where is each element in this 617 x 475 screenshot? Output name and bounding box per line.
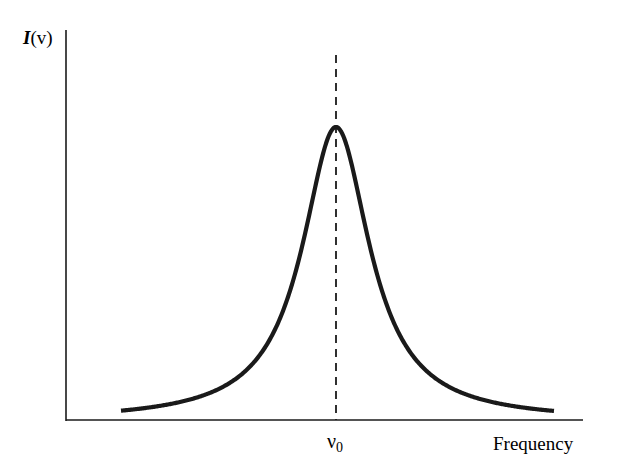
center-frequency-tick-label: ν0 <box>327 430 343 455</box>
lorentzian-line-profile-chart: I(v) ν0 Frequency <box>0 0 617 475</box>
y-axis-label: I(v) <box>22 27 53 49</box>
line-profile-curve <box>121 127 554 411</box>
x-axis-label: Frequency <box>493 433 574 454</box>
